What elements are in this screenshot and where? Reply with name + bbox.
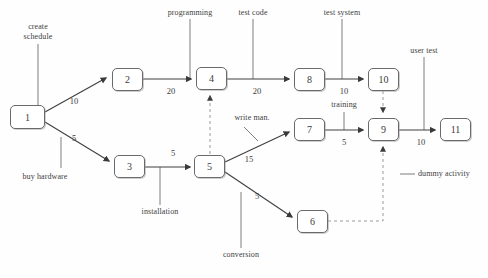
label-user-test: user test <box>410 46 437 55</box>
duration-8-10: 10 <box>340 86 349 96</box>
node-1[interactable]: 1 <box>10 105 45 129</box>
duration-1-3: 5 <box>72 133 76 143</box>
node-label: 4 <box>209 73 214 84</box>
duration-7-9: 5 <box>342 137 346 147</box>
label-text: test code <box>238 8 267 17</box>
label-dummy-activity: dummy activity <box>418 169 470 178</box>
label-programming: programming <box>168 8 213 17</box>
label-write-man: write man. <box>234 113 269 122</box>
label-buy-hardware: buy hardware <box>23 172 68 181</box>
duration-3-5: 5 <box>171 148 175 158</box>
duration-1-2: 10 <box>70 96 79 106</box>
duration-5-7: 15 <box>245 154 254 164</box>
node-label: 11 <box>451 124 461 135</box>
label-test-code: test code <box>238 8 267 17</box>
node-6[interactable]: 6 <box>297 210 328 233</box>
dashed-edges <box>210 91 383 221</box>
node-9[interactable]: 9 <box>368 118 399 141</box>
node-7[interactable]: 7 <box>294 118 325 141</box>
edge-5-7 <box>225 132 289 162</box>
node-label: 5 <box>207 161 212 172</box>
label-line: create <box>24 22 53 32</box>
caption-leader-lines <box>38 19 424 248</box>
node-5[interactable]: 5 <box>194 155 225 178</box>
label-text: test system <box>324 8 360 17</box>
node-label: 1 <box>25 112 30 123</box>
label-training: training <box>331 100 357 109</box>
label-text: buy hardware <box>23 172 68 181</box>
label-text: write man. <box>234 113 269 122</box>
duration-value: 10 <box>340 86 349 96</box>
duration-2-4: 20 <box>167 86 176 96</box>
edge-6-9-dummy <box>328 147 383 221</box>
label-text: conversion <box>223 250 259 259</box>
edge-1-3 <box>45 122 109 161</box>
network-diagram-canvas: 1 2 3 4 5 6 7 8 9 10 11 10 5 20 20 5 15 … <box>0 0 488 278</box>
label-conversion: conversion <box>223 250 259 259</box>
node-label: 10 <box>379 74 389 85</box>
label-text: installation <box>142 207 179 216</box>
duration-9-11: 10 <box>417 137 426 147</box>
duration-value: 10 <box>70 96 79 106</box>
label-text: programming <box>168 8 213 17</box>
leader-write-man <box>244 127 258 141</box>
duration-value: 15 <box>245 154 254 164</box>
duration-5-6: 5 <box>255 191 259 201</box>
duration-value: 5 <box>255 191 259 201</box>
label-installation: installation <box>142 207 179 216</box>
label-text: user test <box>410 46 437 55</box>
node-2[interactable]: 2 <box>112 68 143 91</box>
node-label: 6 <box>310 216 315 227</box>
node-label: 2 <box>125 74 130 85</box>
duration-value: 5 <box>342 137 346 147</box>
duration-value: 20 <box>167 86 176 96</box>
label-line: schedule <box>24 32 53 42</box>
node-label: 8 <box>307 74 312 85</box>
node-label: 3 <box>127 161 132 172</box>
node-10[interactable]: 10 <box>368 68 399 91</box>
solid-edges <box>45 78 435 217</box>
duration-value: 5 <box>72 133 76 143</box>
duration-value: 20 <box>253 86 262 96</box>
duration-value: 10 <box>417 137 426 147</box>
label-text: training <box>331 100 357 109</box>
node-label: 7 <box>307 124 312 135</box>
node-4[interactable]: 4 <box>196 67 227 90</box>
duration-value: 5 <box>171 148 175 158</box>
node-label: 9 <box>381 124 386 135</box>
label-test-system: test system <box>324 8 360 17</box>
node-8[interactable]: 8 <box>294 68 325 91</box>
node-3[interactable]: 3 <box>114 155 145 178</box>
label-create-schedule: create schedule <box>24 22 53 42</box>
duration-4-8: 20 <box>253 86 262 96</box>
edge-1-2 <box>45 78 106 112</box>
label-text: dummy activity <box>418 169 470 178</box>
node-11[interactable]: 11 <box>440 118 471 141</box>
